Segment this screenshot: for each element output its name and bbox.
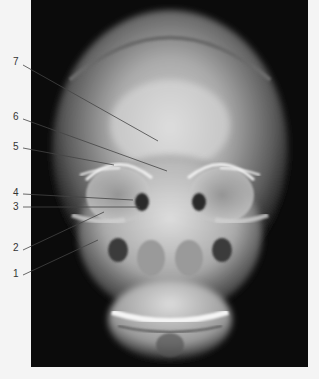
leader-line-2 [23,212,104,250]
label-7: 7 [13,57,19,67]
label-3: 3 [13,202,19,212]
skull-radiograph-figure: 7 6 5 4 3 2 1 [0,0,319,379]
label-6: 6 [13,112,19,122]
leader-line-6 [23,119,167,171]
label-4: 4 [13,188,19,198]
label-2: 2 [13,243,19,253]
leader-line-1 [23,240,98,275]
leader-line-5 [23,148,114,165]
label-5: 5 [13,142,19,152]
label-1: 1 [13,269,19,279]
leader-lines [0,0,319,379]
leader-line-4 [23,194,133,200]
leader-line-7 [23,65,158,141]
